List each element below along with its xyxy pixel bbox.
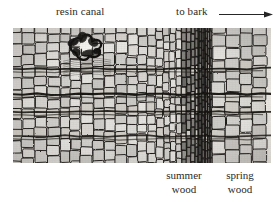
label-to-bark: to bark <box>176 5 208 17</box>
label-summer-wood-line2: wood <box>158 182 210 196</box>
label-spring-wood-line2: wood <box>216 182 264 196</box>
label-summer-wood: summer wood <box>158 168 210 196</box>
label-summer-wood-line1: summer <box>158 168 210 182</box>
wood-anatomy-figure: resin canal to bark summer wood spring w… <box>0 0 279 202</box>
micrograph-image <box>13 28 271 163</box>
label-spring-wood-line1: spring <box>216 168 264 182</box>
arrow-right-icon <box>219 10 273 19</box>
label-resin-canal: resin canal <box>56 5 104 17</box>
wood-section-drawing <box>13 28 271 163</box>
label-spring-wood: spring wood <box>216 168 264 196</box>
